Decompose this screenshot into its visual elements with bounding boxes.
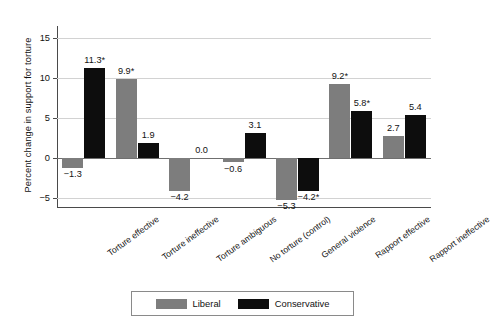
bar-value-label: 3.1 <box>249 120 262 130</box>
bar-conservative-6 <box>405 115 426 158</box>
bar-liberal-2 <box>169 158 190 192</box>
chart-legend: Liberal Conservative <box>131 291 354 316</box>
y-tick-mark <box>53 158 57 159</box>
y-tick-label: 0 <box>45 153 50 163</box>
bar-value-label: 9.9* <box>118 66 134 76</box>
bar-value-label: −5.3 <box>277 201 295 211</box>
x-axis-label-0: Torture effective <box>105 214 160 258</box>
bar-liberal-3 <box>223 158 244 163</box>
gridline <box>57 38 431 39</box>
x-axis-label-6: Rapport ineffective <box>428 214 492 264</box>
legend-item-conservative: Conservative <box>238 298 330 309</box>
legend-label-conservative: Conservative <box>275 298 330 309</box>
bar-liberal-4 <box>276 158 297 200</box>
y-tick-label: −5 <box>39 193 50 203</box>
bar-liberal-1 <box>116 79 137 158</box>
gridline <box>57 198 431 199</box>
bar-conservative-3 <box>245 133 266 158</box>
legend-item-liberal: Liberal <box>156 298 221 309</box>
y-tick-mark <box>53 38 57 39</box>
bar-value-label: 11.3* <box>84 55 105 65</box>
y-tick-mark <box>53 198 57 199</box>
bar-conservative-0 <box>84 68 105 158</box>
gridline <box>57 78 431 79</box>
x-axis-line <box>57 207 431 208</box>
bar-value-label: −1.3 <box>64 169 82 179</box>
zero-line <box>57 158 431 159</box>
y-tick-mark <box>53 118 57 119</box>
x-axis-label-1: Torture ineffective <box>160 214 221 262</box>
y-tick-mark <box>53 78 57 79</box>
bar-value-label: −0.6 <box>224 164 242 174</box>
legend-swatch-liberal <box>156 299 187 309</box>
bar-value-label: 2.7 <box>387 123 400 133</box>
bar-liberal-0 <box>62 158 83 168</box>
plot-area: 151050−5 −1.311.3*9.9*1.9−4.20.0−0.63.1−… <box>57 26 431 208</box>
y-tick-label: 10 <box>40 73 50 83</box>
bar-value-label: 9.2* <box>332 71 348 81</box>
bar-value-label: −4.2 <box>170 192 188 202</box>
bar-value-label: −4.2* <box>298 192 320 202</box>
bar-value-label: 5.4 <box>409 102 422 112</box>
bar-conservative-1 <box>138 143 159 158</box>
y-tick-label: 5 <box>45 113 50 123</box>
x-axis-label-5: Rapport effective <box>373 214 431 260</box>
bar-conservative-4 <box>298 158 319 192</box>
legend-label-liberal: Liberal <box>193 298 221 309</box>
bar-conservative-5 <box>351 111 372 157</box>
y-axis-title: Percent change in support for torture <box>23 15 33 215</box>
bar-liberal-6 <box>383 136 404 158</box>
bar-liberal-5 <box>329 84 350 157</box>
y-tick-label: 15 <box>40 33 50 43</box>
bar-value-label: 5.8* <box>354 98 370 108</box>
bar-value-label: 0.0 <box>195 145 208 155</box>
bar-value-label: 1.9 <box>142 130 155 140</box>
gridline <box>57 118 431 119</box>
legend-swatch-conservative <box>238 299 269 309</box>
